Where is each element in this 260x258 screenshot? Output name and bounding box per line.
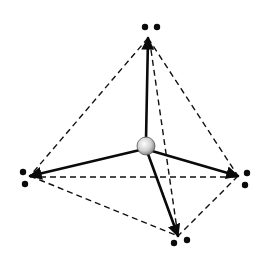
- bond-left: [30, 150, 140, 176]
- electron-dot: [184, 237, 190, 243]
- electron-dot: [22, 181, 28, 187]
- central-atom-sphere: [137, 137, 155, 155]
- electron-dot: [244, 170, 250, 176]
- electron-dot: [142, 24, 148, 30]
- edge-right-bottom: [178, 176, 238, 236]
- tetrahedron-edges: [30, 38, 238, 236]
- edge-top-bottom: [151, 50, 178, 236]
- edge-top-right: [148, 38, 238, 176]
- electron-pair-top: [142, 24, 160, 30]
- bond-bottom: [148, 154, 178, 236]
- electron-dot: [154, 24, 160, 30]
- edge-left-bottom: [30, 176, 178, 236]
- electron-pairs: [20, 24, 250, 246]
- electron-dot: [20, 169, 26, 175]
- electron-pair-right: [242, 170, 250, 188]
- electron-dot: [171, 240, 177, 246]
- electron-dot: [242, 182, 248, 188]
- bond-top: [146, 38, 148, 140]
- electron-pair-left: [20, 169, 28, 187]
- tetrahedral-diagram: [0, 0, 260, 258]
- edge-top-left: [30, 38, 148, 176]
- bond-right: [152, 151, 238, 176]
- electron-pair-bottom: [171, 237, 190, 246]
